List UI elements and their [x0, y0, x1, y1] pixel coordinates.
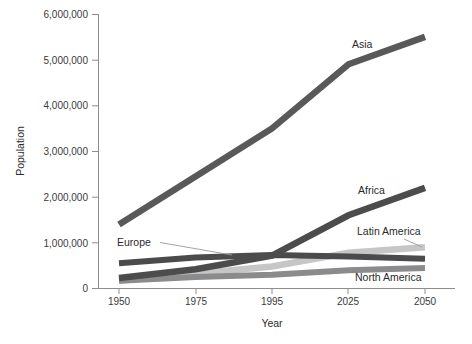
y-tick-label-4000000: 4,000,000	[44, 100, 89, 111]
x-tick-label-2050: 2050	[414, 296, 437, 307]
series-label-europe: Europe	[117, 236, 151, 248]
series-group	[119, 37, 425, 281]
y-tick-label-6000000: 6,000,000	[44, 9, 89, 20]
y-tick-label-1000000: 1,000,000	[44, 238, 89, 249]
series-annotations: Asia Africa Latin America Europe North A…	[117, 38, 422, 283]
x-axis-title: Year	[261, 317, 283, 329]
series-label-north-america: North America	[355, 271, 422, 283]
y-tick-label-5000000: 5,000,000	[44, 55, 89, 66]
x-tick-label-1995: 1995	[261, 296, 284, 307]
chart-canvas: 6,000,000 5,000,000 4,000,000 3,000,000 …	[0, 0, 472, 344]
series-line-asia[interactable]	[119, 37, 425, 225]
y-axis-title: Population	[14, 126, 26, 176]
y-axis: 6,000,000 5,000,000 4,000,000 3,000,000 …	[14, 9, 99, 294]
y-tick-label-3000000: 3,000,000	[44, 146, 89, 157]
x-axis: 1950 1975 1995 2025 2050 Year	[99, 289, 456, 330]
x-tick-label-1950: 1950	[108, 296, 131, 307]
y-tick-label-2000000: 2,000,000	[44, 192, 89, 203]
population-line-chart: 6,000,000 5,000,000 4,000,000 3,000,000 …	[0, 0, 472, 344]
leader-line-europe	[160, 243, 232, 256]
series-label-africa: Africa	[358, 184, 385, 196]
x-tick-label-1975: 1975	[185, 296, 208, 307]
series-label-latin-america: Latin America	[357, 225, 421, 237]
y-tick-label-0: 0	[82, 283, 88, 294]
x-tick-label-2025: 2025	[337, 296, 360, 307]
series-label-asia: Asia	[352, 38, 373, 50]
